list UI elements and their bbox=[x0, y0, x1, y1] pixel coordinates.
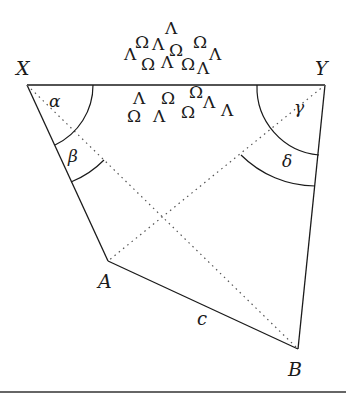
greek-symbol: Ω bbox=[161, 88, 175, 108]
side-yb bbox=[298, 85, 325, 349]
greek-symbol: Ω bbox=[193, 32, 207, 52]
greek-symbol: Ω bbox=[189, 82, 203, 102]
greek-symbol: Λ bbox=[160, 52, 174, 72]
side-xa bbox=[27, 85, 108, 261]
greek-symbol: Ω bbox=[181, 102, 195, 122]
angle-arc-delta bbox=[241, 155, 315, 186]
greek-symbol: Λ bbox=[196, 58, 210, 78]
greek-symbol: Λ bbox=[151, 34, 165, 54]
symbols-below-line: ΛΩΩΛΩΛΩΛ bbox=[127, 82, 234, 126]
greek-symbol: Λ bbox=[164, 18, 178, 38]
greek-symbol: Λ bbox=[220, 100, 234, 120]
vertex-label-y: Y bbox=[315, 57, 330, 79]
side-label-c: c bbox=[197, 308, 207, 329]
angle-arc-alpha bbox=[55, 85, 93, 145]
greek-symbol: Λ bbox=[132, 88, 146, 108]
greek-symbol: Λ bbox=[152, 106, 166, 126]
side-ab bbox=[108, 261, 298, 349]
vertex-label-a: A bbox=[96, 270, 112, 292]
greek-symbol: Ω bbox=[181, 54, 195, 74]
angle-label-delta: δ bbox=[282, 151, 292, 171]
greek-symbol: Ω bbox=[135, 32, 149, 52]
quadrilateral-diagram: X Y A B c α β γ δ ΛΩΛΩΛΩΛΩΛΩΛ ΛΩΩΛΩΛΩΛ bbox=[0, 0, 346, 398]
vertex-label-x: X bbox=[14, 57, 31, 79]
greek-symbol: Λ bbox=[202, 92, 216, 112]
angle-label-alpha: α bbox=[49, 91, 61, 111]
greek-symbol: Λ bbox=[123, 44, 137, 64]
vertex-label-b: B bbox=[287, 358, 302, 380]
greek-symbol: Ω bbox=[127, 106, 141, 126]
greek-symbol: Ω bbox=[141, 54, 155, 74]
greek-symbol: Λ bbox=[208, 44, 222, 64]
angle-arc-gamma bbox=[257, 85, 319, 155]
angle-label-gamma: γ bbox=[294, 97, 305, 117]
symbols-above-line: ΛΩΛΩΛΩΛΩΛΩΛ bbox=[123, 18, 222, 78]
angle-label-beta: β bbox=[67, 146, 78, 166]
